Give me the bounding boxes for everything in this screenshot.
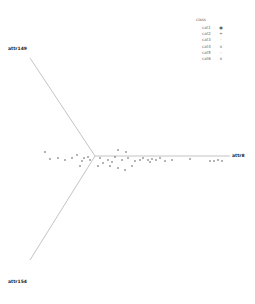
data-point [155, 159, 157, 161]
legend-marker-icon: × [218, 44, 224, 49]
data-point [71, 157, 73, 159]
data-point [221, 160, 223, 162]
legend-title: class [196, 17, 224, 22]
data-point [83, 157, 85, 159]
data-point [81, 160, 83, 162]
data-point [89, 159, 91, 161]
anchor-label-attr8: attr8 [232, 153, 245, 158]
data-point [109, 165, 111, 167]
data-point [134, 160, 136, 162]
data-point [125, 151, 127, 153]
data-point [76, 154, 78, 156]
data-points [44, 149, 223, 171]
legend-entry: cat3· [196, 37, 224, 43]
data-point [57, 157, 59, 159]
legend-entry: cat1● [196, 24, 224, 30]
anchor-line-attr149 [30, 58, 95, 156]
legend-marker-icon: + [218, 31, 224, 36]
data-point [147, 159, 149, 161]
legend-entry: cat5- [196, 49, 224, 55]
legend-label: cat2 [196, 31, 218, 36]
data-point [213, 160, 215, 162]
data-point [64, 159, 66, 161]
data-point [142, 157, 144, 159]
data-point [44, 151, 46, 153]
anchor-label-attr154: attr154 [8, 279, 27, 284]
legend-marker-icon: × [218, 56, 224, 61]
data-point [164, 160, 166, 162]
legend-label: cat4 [196, 44, 218, 49]
data-point [79, 165, 81, 167]
data-point [102, 162, 104, 164]
data-point [49, 158, 51, 160]
data-point [127, 157, 129, 159]
legend-marker-icon: ● [218, 25, 224, 30]
legend: class cat1●cat2+cat3·cat4×cat5-cat6× [196, 17, 224, 62]
data-point [159, 157, 161, 159]
legend-marker-icon: · [218, 37, 224, 42]
data-point [124, 169, 126, 171]
anchor-line-attr154 [30, 156, 95, 260]
legend-entry: cat6× [196, 55, 224, 61]
data-point [111, 161, 113, 163]
data-point [131, 165, 133, 167]
data-point [121, 159, 123, 161]
legend-entry: cat2+ [196, 30, 224, 36]
data-point [171, 159, 173, 161]
data-point [151, 158, 153, 160]
data-point [117, 167, 119, 169]
data-point [149, 161, 151, 163]
data-point [217, 159, 219, 161]
legend-label: cat3 [196, 37, 218, 42]
legend-marker-icon: - [218, 50, 224, 55]
data-point [114, 156, 116, 158]
data-point [189, 158, 191, 160]
data-point [97, 165, 99, 167]
data-point [99, 157, 101, 159]
legend-label: cat5 [196, 50, 218, 55]
data-point [107, 159, 109, 161]
data-point [87, 156, 89, 158]
data-point [209, 160, 211, 162]
data-point [139, 159, 141, 161]
legend-label: cat1 [196, 25, 218, 30]
data-point [117, 149, 119, 151]
legend-label: cat6 [196, 56, 218, 61]
legend-entry: cat4× [196, 43, 224, 49]
anchor-lines [30, 58, 230, 260]
anchor-label-attr149: attr149 [8, 46, 27, 51]
